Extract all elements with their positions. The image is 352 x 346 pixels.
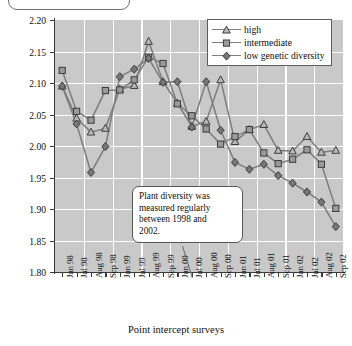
data-point-square bbox=[218, 141, 224, 147]
data-point-triangle bbox=[202, 117, 210, 124]
data-point-square bbox=[174, 101, 180, 107]
data-point-square bbox=[117, 87, 123, 93]
series-layer bbox=[0, 0, 352, 346]
data-point-square bbox=[74, 108, 80, 114]
data-point-square bbox=[160, 60, 166, 66]
data-point-square bbox=[318, 161, 324, 167]
data-point-square bbox=[131, 77, 137, 83]
data-point-square bbox=[261, 150, 267, 156]
data-point-triangle bbox=[102, 124, 110, 131]
data-point-diamond bbox=[203, 78, 210, 86]
data-point-diamond bbox=[116, 73, 123, 81]
data-point-square bbox=[333, 205, 339, 211]
data-point-square bbox=[88, 117, 94, 123]
series-line-low-genetic-diversity bbox=[62, 58, 336, 226]
data-point-square bbox=[290, 156, 296, 162]
data-point-diamond bbox=[303, 188, 310, 196]
data-point-triangle bbox=[303, 133, 311, 140]
chart-figure: 2.202.152.102.052.001.951.901.851.80 Jun… bbox=[0, 0, 352, 346]
data-point-diamond bbox=[318, 198, 325, 206]
data-point-square bbox=[203, 126, 209, 132]
data-point-diamond bbox=[87, 168, 94, 176]
data-point-diamond bbox=[188, 123, 195, 131]
data-point-diamond bbox=[174, 78, 181, 86]
data-point-diamond bbox=[217, 126, 224, 134]
data-point-square bbox=[232, 133, 238, 139]
data-point-diamond bbox=[289, 179, 296, 187]
data-point-square bbox=[189, 113, 195, 119]
data-point-square bbox=[304, 147, 310, 153]
data-point-diamond bbox=[246, 165, 253, 173]
series-line-high bbox=[62, 41, 336, 152]
data-point-triangle bbox=[260, 121, 268, 128]
data-point-diamond bbox=[332, 223, 339, 231]
data-point-triangle bbox=[217, 76, 225, 83]
data-point-square bbox=[246, 127, 252, 133]
data-point-square bbox=[102, 87, 108, 93]
data-point-diamond bbox=[231, 158, 238, 166]
data-point-triangle bbox=[145, 37, 153, 44]
series-line-intermediate bbox=[62, 57, 336, 208]
data-point-diamond bbox=[102, 143, 109, 151]
data-point-square bbox=[275, 161, 281, 167]
data-point-triangle bbox=[332, 146, 340, 153]
data-point-square bbox=[59, 67, 65, 73]
